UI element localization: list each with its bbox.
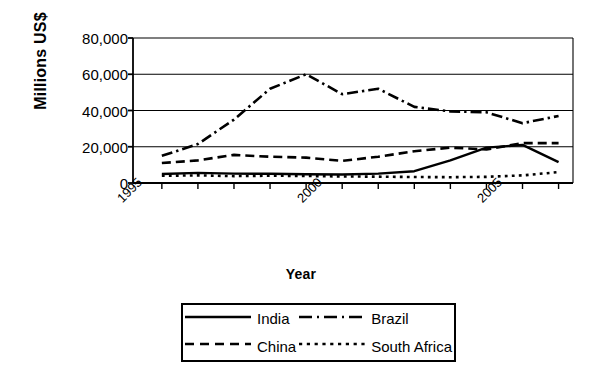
dash-dot-line-key-icon [297, 310, 367, 324]
dashed-line-key-icon [183, 337, 253, 351]
legend-row: China South Africa [183, 333, 454, 361]
solid-line-key-icon [183, 310, 253, 324]
x-axis-title: Year [0, 266, 602, 282]
legend-key-south-africa [297, 333, 371, 361]
legend-row: India Brazil [183, 305, 454, 333]
legend-label-brazil: Brazil [371, 305, 454, 333]
legend-key-brazil [297, 305, 371, 333]
series-line-brazil [162, 74, 559, 156]
legend-key-india [183, 305, 257, 333]
legend-key-china [183, 333, 257, 361]
chart-figure: Millions US$ 020,00040,00060,00080,000 Y… [0, 0, 602, 379]
dotted-line-key-icon [297, 337, 367, 351]
chart-legend: India Brazil China [181, 303, 456, 362]
legend-label-china: China [257, 333, 297, 361]
legend-table: India Brazil China [183, 305, 454, 360]
series-line-china [162, 143, 559, 163]
legend-label-india: India [257, 305, 297, 333]
legend-label-south-africa: South Africa [371, 333, 454, 361]
